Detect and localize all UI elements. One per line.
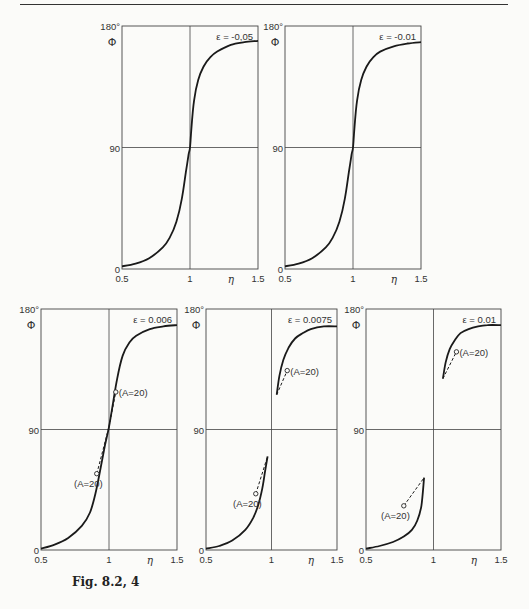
y-tick-label: 90 [272,143,283,154]
y-tick-label: 180° [19,304,39,315]
x-axis-label: η [391,273,398,285]
x-tick-label: 0.5 [115,273,128,284]
y-tick-label: 180° [100,21,120,32]
x-tick-label: 0.5 [199,554,212,565]
y-tick-label: 180° [263,21,283,32]
y-axis-label: Φ [27,319,36,332]
y-axis-label: Φ [352,319,361,332]
y-tick-label: 90 [109,143,120,154]
a20-annotation-label: (A=20) [459,347,488,358]
a20-marker-icon [402,504,406,508]
epsilon-label: ε = 0.01 [462,314,496,325]
x-tick-label: 1 [269,554,274,565]
figure-caption: Fig. 8.2, 4 [72,575,139,589]
chart-top-right: 090180°Φ0.511.5ηε = -0.01 [263,21,427,285]
x-tick-label: 1.5 [251,273,264,284]
epsilon-label: ε = -0.01 [379,31,416,42]
y-tick-label: 180° [344,304,364,315]
x-axis-label: η [308,554,315,566]
a20-marker-icon [95,471,99,475]
x-tick-label: 0.5 [34,554,47,565]
x-tick-label: 1.5 [330,554,343,565]
chart-bottom-right: 090180°Φ0.511.5ηε = 0.01(A=20)(A=20) [344,304,507,566]
epsilon-label: ε = 0.006 [133,314,172,325]
x-axis-label: η [147,554,154,566]
x-tick-label: 1 [350,273,355,284]
y-tick-label: 180° [184,304,204,315]
x-tick-label: 1.5 [414,273,427,284]
y-tick-label: 90 [193,425,204,436]
x-tick-label: 1.5 [494,554,507,565]
a20-annotation-label: (A=20) [381,510,410,521]
a20-marker-icon [454,350,458,354]
x-axis-label: η [228,273,235,285]
chart-top-left: 090180°Φ0.511.5ηε = -0,05 [100,21,264,285]
epsilon-label: ε = -0,05 [216,31,253,42]
y-tick-label: 90 [28,425,39,436]
a20-annotation-label: (A=20) [119,387,148,398]
x-axis-label: η [471,554,478,566]
x-tick-label: 0.5 [278,273,291,284]
x-tick-label: 1.5 [170,554,183,565]
chart-bottom-middle: 090180°Φ0.511.5ηε = 0.0075(A=20)(A=20) [184,304,343,566]
epsilon-label: ε = 0.0075 [288,314,332,325]
x-tick-label: 1 [106,554,111,565]
x-tick-label: 1 [431,554,436,565]
x-tick-label: 0.5 [359,554,372,565]
y-axis-label: Φ [271,36,280,49]
x-tick-label: 1 [187,273,192,284]
a20-dashed-line [97,427,109,474]
a20-marker-icon [254,492,258,496]
a20-marker-icon [114,390,118,394]
a20-marker-icon [285,368,289,372]
figure-canvas: 090180°Φ0.511.5ηε = -0,05090180°Φ0.511.5… [0,0,529,609]
a20-annotation-label: (A=20) [290,366,319,377]
phase-curve [277,326,337,394]
y-axis-label: Φ [192,319,201,332]
a20-annotation-label: (A=20) [74,478,103,489]
a20-annotation-label: (A=20) [233,498,262,509]
y-axis-label: Φ [108,36,117,49]
y-tick-label: 90 [353,425,364,436]
chart-bottom-left: 090180°Φ0.511.5ηε = 0.006(A=20)(A=20) [19,304,183,566]
a20-dashed-line [109,392,116,427]
